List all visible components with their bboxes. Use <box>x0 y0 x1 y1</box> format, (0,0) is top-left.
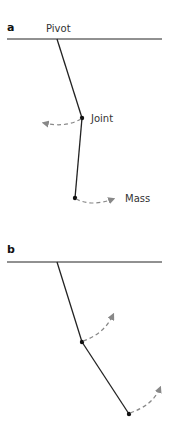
lower-arm <box>82 342 129 414</box>
joint-motion-arrow <box>44 119 81 125</box>
lower-arm <box>75 118 82 198</box>
joint-label: Joint <box>90 113 113 124</box>
upper-arm <box>57 39 82 118</box>
double-pendulum-diagram: a Pivot Joint Mass b <box>0 0 170 436</box>
panel-b: b <box>7 243 162 416</box>
panel-label-b: b <box>7 243 15 256</box>
mass-motion-arrow <box>130 388 160 413</box>
pivot-label: Pivot <box>46 23 71 34</box>
mass-motion-arrow <box>76 199 113 203</box>
joint-motion-arrow <box>83 315 113 341</box>
mass-label: Mass <box>125 193 150 204</box>
panel-a: a Pivot Joint Mass <box>7 21 162 204</box>
panel-label-a: a <box>7 21 14 34</box>
upper-arm <box>57 262 82 342</box>
